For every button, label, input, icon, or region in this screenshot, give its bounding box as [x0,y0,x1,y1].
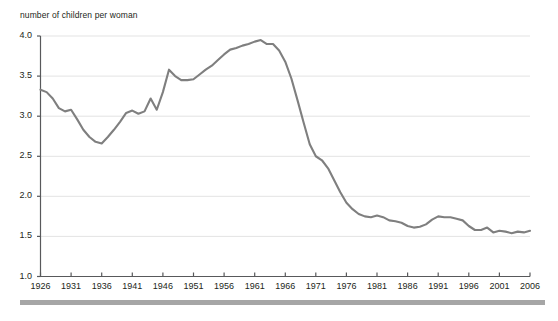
footer-rule [20,300,545,305]
x-tick-label: 1986 [391,281,425,291]
x-tick-label: 1971 [299,281,333,291]
gridlines-group [41,36,531,236]
x-tick-label: 1961 [238,281,272,291]
x-tick-label: 1966 [268,281,302,291]
plot-area [0,0,558,321]
x-tick-label: 1981 [360,281,394,291]
y-tick-label: 2.0 [6,190,32,200]
x-tick-label: 1956 [207,281,241,291]
x-tick-label: 1936 [85,281,119,291]
fertility-rate-chart: number of children per woman 1.01.52.02.… [0,0,558,321]
x-tick-label: 2006 [513,281,547,291]
data-series-line [41,40,531,233]
y-tick-label: 3.5 [6,70,32,80]
y-tick-label: 1.0 [6,271,32,281]
x-tick-label: 1951 [176,281,210,291]
x-tick-label: 1996 [452,281,486,291]
x-tick-label: 1926 [24,281,58,291]
x-tick-label: 1931 [54,281,88,291]
x-tick-label: 2001 [482,281,516,291]
x-tick-label: 1946 [146,281,180,291]
x-tick-label: 1976 [329,281,363,291]
y-tick-label: 2.5 [6,150,32,160]
y-tick-label: 1.5 [6,230,32,240]
x-tick-label: 1991 [421,281,455,291]
y-tick-label: 4.0 [6,30,32,40]
x-tick-label: 1941 [115,281,149,291]
y-tick-label: 3.0 [6,110,32,120]
